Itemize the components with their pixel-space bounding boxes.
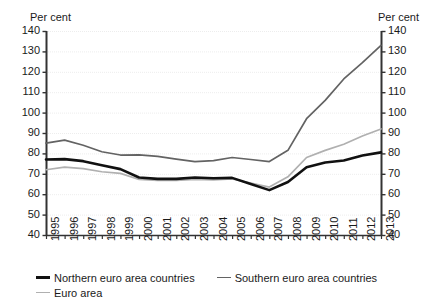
left-axis-title: Per cent [30, 11, 71, 23]
right-axis-title: Per cent [378, 11, 419, 23]
right-axis-tick-label: 140 [388, 25, 412, 36]
legend-row-1: Northern euro area countries Southern eu… [36, 270, 426, 285]
left-axis-tick-label: 110 [16, 86, 40, 97]
legend-label-euro-area: Euro area [54, 287, 102, 299]
x-axis-tick-label: 2007 [273, 217, 284, 241]
x-axis-tick-label: 2006 [255, 217, 266, 241]
x-axis-tick-label: 2009 [311, 217, 322, 241]
legend-label-southern: Southern euro area countries [235, 272, 377, 284]
x-axis-tick-label: 2002 [180, 217, 191, 241]
x-axis-tick-label: 1996 [69, 217, 80, 241]
legend-swatch-northern-icon [36, 276, 50, 279]
left-axis-tick-label: 60 [16, 188, 40, 199]
right-axis-tick-label: 70 [388, 168, 412, 179]
left-axis-tick-label: 70 [16, 168, 40, 179]
x-axis-tick-label: 1998 [106, 217, 117, 241]
x-axis-tick-label: 2000 [143, 217, 154, 241]
legend-swatch-southern-icon [217, 277, 231, 279]
legend-label-northern: Northern euro area countries [54, 272, 195, 284]
x-axis-tick-label: 2012 [366, 217, 377, 241]
right-axis-tick-label: 110 [388, 86, 412, 97]
right-axis-tick-label: 130 [388, 45, 412, 56]
left-axis-tick-label: 100 [16, 107, 40, 118]
x-axis-tick-label: 2001 [162, 217, 173, 241]
chart-plot-area [0, 0, 430, 306]
left-axis-tick-label: 40 [16, 229, 40, 240]
x-axis-tick-label: 2004 [218, 217, 229, 241]
right-axis-tick-label: 90 [388, 127, 412, 138]
x-axis-tick-label: 1999 [124, 217, 135, 241]
legend-item-northern: Northern euro area countries [36, 272, 195, 284]
left-axis-tick-label: 140 [16, 25, 40, 36]
chart-legend: Northern euro area countries Southern eu… [36, 270, 426, 300]
right-axis-tick-label: 80 [388, 147, 412, 158]
legend-item-euro-area: Euro area [36, 287, 102, 299]
right-axis-tick-label: 60 [388, 188, 412, 199]
x-axis-tick-label: 2008 [292, 217, 303, 241]
legend-item-southern: Southern euro area countries [217, 272, 377, 284]
left-axis-tick-label: 130 [16, 45, 40, 56]
left-axis-tick-label: 120 [16, 66, 40, 77]
x-axis-tick-label: 1997 [87, 217, 98, 241]
x-axis-tick-label: 2011 [348, 217, 359, 241]
series-line-southern-euro-area-countries [46, 45, 381, 161]
left-axis-tick-label: 80 [16, 147, 40, 158]
legend-swatch-euro-area-icon [36, 292, 50, 294]
right-axis-tick-label: 100 [388, 107, 412, 118]
x-axis-tick-label: 1995 [50, 217, 61, 241]
left-axis-tick-label: 50 [16, 209, 40, 220]
right-axis-tick-label: 120 [388, 66, 412, 77]
x-axis-tick-label: 2005 [236, 217, 247, 241]
x-axis-tick-label: 2013 [385, 217, 396, 241]
x-axis-tick-label: 2003 [199, 217, 210, 241]
chart-container: Per cent Per cent 4050607080901001101201… [0, 0, 430, 306]
legend-row-2: Euro area [36, 285, 426, 300]
x-axis-tick-label: 2010 [329, 217, 340, 241]
left-axis-tick-label: 90 [16, 127, 40, 138]
